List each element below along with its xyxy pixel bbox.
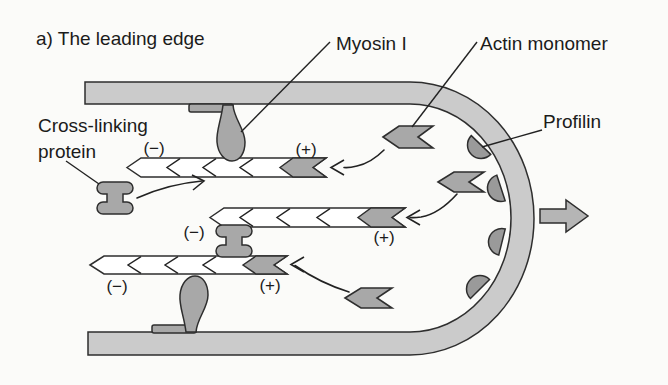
actin-monomer-1: [383, 126, 433, 148]
filament3-minus-end: (−): [106, 277, 127, 296]
profilin-dome: [486, 226, 506, 255]
crosslink-label-line1: Cross-linking: [38, 115, 148, 136]
crosslink-attach-arrow: [137, 181, 202, 198]
myosin-bottom: [152, 276, 208, 333]
actin-monomer-2: [438, 172, 484, 192]
actin-filament-2: [210, 208, 405, 227]
crosslink-protein-2: [216, 225, 252, 257]
filament2-plus-end: (+): [373, 228, 394, 247]
actin-filament-1: [127, 158, 326, 177]
filament3-plus-end: (+): [259, 276, 280, 295]
actin-filament-3: [90, 256, 287, 274]
actin-monomer-3: [345, 288, 392, 308]
crosslink-protein-1: [97, 182, 133, 214]
polymerization-arrow-2: [410, 194, 457, 218]
figure-canvas: a) The leading edge Myosin I Actin monom…: [0, 0, 668, 385]
leading-edge-diagram: a) The leading edge Myosin I Actin monom…: [0, 0, 668, 385]
crosslink-pointer-line: [66, 161, 99, 184]
actin-monomer-label: Actin monomer: [480, 33, 608, 54]
polymerization-arrow-1: [344, 150, 384, 168]
polymerization-arrowhead-1: [331, 160, 344, 175]
filament2-minus-end: (−): [183, 223, 204, 242]
filament1-plus-end: (+): [295, 140, 316, 159]
myosin-label: Myosin I: [336, 33, 407, 54]
profilin-dome: [484, 175, 505, 205]
profilin-label: Profilin: [543, 111, 601, 132]
filament1-minus-end: (−): [143, 139, 164, 158]
crosslink-label-line2: protein: [38, 141, 96, 162]
polymerization-arrow-3: [295, 266, 349, 293]
movement-direction-arrow: [540, 200, 588, 232]
myosin-top: [189, 104, 245, 161]
figure-title: a) The leading edge: [36, 28, 205, 49]
